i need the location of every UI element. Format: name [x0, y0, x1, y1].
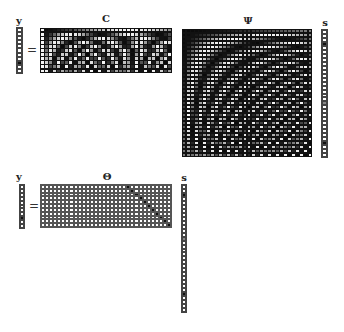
matrix-cell: [131, 33, 134, 36]
matrix-cell: [239, 50, 242, 53]
matrix-cell: [256, 50, 259, 53]
matrix-cell: [239, 42, 242, 45]
matrix-cell: [231, 122, 234, 125]
matrix-cell: [160, 45, 163, 48]
matrix-cell: [260, 118, 263, 121]
matrix-cell: [280, 122, 283, 125]
matrix-cell: [183, 122, 186, 125]
matrix-cell: [235, 42, 238, 45]
matrix-cell: [168, 53, 171, 56]
matrix-cell: [272, 94, 275, 97]
matrix-cell: [164, 57, 167, 60]
matrix-cell: [300, 70, 303, 73]
matrix-cell: [123, 37, 126, 40]
matrix-cell: [203, 126, 206, 129]
matrix-cell: [191, 134, 194, 137]
matrix-cell: [280, 102, 283, 105]
matrix-cell: [74, 41, 77, 44]
matrix-cell: [140, 70, 143, 73]
matrix-cell: [248, 122, 251, 125]
matrix-cell: [152, 65, 155, 68]
matrix-cell: [248, 130, 251, 133]
matrix-cell: [191, 150, 194, 153]
matrix-cell: [288, 86, 291, 89]
matrix-cell: [135, 37, 138, 40]
matrix-cell: [115, 53, 118, 56]
matrix-cell: [207, 38, 210, 41]
matrix-cell: [195, 86, 198, 89]
matrix-cell: [207, 70, 210, 73]
matrix-cell: [215, 94, 218, 97]
matrix-cell: [276, 130, 279, 133]
matrix-cell: [248, 114, 251, 117]
matrix-cell: [300, 66, 303, 69]
matrix-cell: [211, 74, 214, 77]
matrix-cell: [231, 146, 234, 149]
matrix-cell: [183, 30, 186, 33]
matrix-cell: [276, 66, 279, 69]
matrix-cell: [260, 94, 263, 97]
matrix-cell: [160, 37, 163, 40]
matrix-cell: [239, 154, 242, 157]
matrix-cell: [231, 98, 234, 101]
matrix-cell: [235, 74, 238, 77]
matrix-cell: [252, 102, 255, 105]
matrix-cell: [280, 38, 283, 41]
matrix-cell: [296, 98, 299, 101]
matrix-cell: [227, 78, 230, 81]
matrix-cell: [244, 98, 247, 101]
matrix-cell: [244, 54, 247, 57]
matrix-cell: [223, 42, 226, 45]
matrix-cell: [231, 78, 234, 81]
matrix-cell: [61, 65, 64, 68]
matrix-cell: [239, 110, 242, 113]
matrix-cell: [115, 49, 118, 52]
matrix-cell: [231, 66, 234, 69]
matrix-cell: [300, 98, 303, 101]
matrix-cell: [183, 34, 186, 37]
matrix-cell: [199, 74, 202, 77]
matrix-cell: [284, 90, 287, 93]
matrix-cell: [227, 38, 230, 41]
matrix-cell: [203, 102, 206, 105]
matrix-cell: [276, 154, 279, 157]
matrix-cell: [231, 142, 234, 145]
matrix-cell: [123, 61, 126, 64]
matrix-cell: [309, 94, 312, 97]
matrix-cell: [239, 134, 242, 137]
matrix-cell: [304, 86, 307, 89]
matrix-cell: [156, 53, 159, 56]
matrix-cell: [211, 34, 214, 37]
matrix-cell: [276, 78, 279, 81]
matrix-cell: [223, 146, 226, 149]
matrix-cell: [203, 146, 206, 149]
matrix-cell: [280, 34, 283, 37]
matrix-cell: [280, 138, 283, 141]
matrix-cell: [296, 138, 299, 141]
matrix-cell: [219, 30, 222, 33]
matrix-cell: [86, 37, 89, 40]
matrix-cell: [215, 138, 218, 141]
matrix-cell: [288, 58, 291, 61]
matrix-cell: [207, 50, 210, 53]
matrix-cell: [156, 70, 159, 73]
matrix-cell: [49, 53, 52, 56]
matrix-cell: [235, 66, 238, 69]
matrix-cell: [195, 34, 198, 37]
matrix-cell: [199, 54, 202, 57]
matrix-cell: [74, 45, 77, 48]
matrix-cell: [231, 126, 234, 129]
matrix-cell: [288, 98, 291, 101]
matrix-cell: [187, 94, 190, 97]
matrix-cell: [256, 54, 259, 57]
matrix-cell: [264, 94, 267, 97]
matrix-cell: [195, 38, 198, 41]
matrix-cell: [219, 94, 222, 97]
matrix-cell: [127, 37, 130, 40]
matrix-cell: [131, 65, 134, 68]
matrix-cell: [211, 150, 214, 153]
matrix-cell: [248, 150, 251, 153]
matrix-cell: [304, 74, 307, 77]
matrix-cell: [168, 49, 171, 52]
matrix-cell: [140, 65, 143, 68]
